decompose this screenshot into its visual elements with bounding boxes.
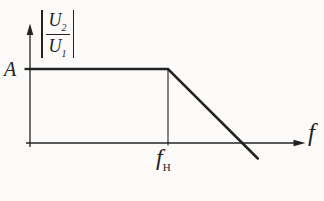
abs-bar-right	[73, 10, 75, 58]
x-axis-arrowhead-icon	[294, 140, 306, 146]
x-tick-subscript: H	[163, 161, 171, 173]
x-tick-label: fH	[156, 142, 171, 173]
response-curve	[30, 69, 258, 159]
y-axis-label: U2 U1	[41, 10, 74, 58]
fraction-numerator: U2	[46, 10, 70, 35]
abs-bar-left	[41, 10, 43, 58]
numerator-base: U	[49, 10, 62, 30]
x-tick-base: f	[156, 144, 163, 170]
y-tick-label: A	[4, 57, 16, 81]
fraction-denominator: U1	[46, 35, 70, 59]
y-axis-arrowhead-icon	[27, 24, 34, 36]
frequency-response-figure: U2 U1 A fH f	[0, 0, 324, 201]
denominator-subscript: 1	[62, 47, 67, 58]
u-ratio-fraction: U2 U1	[46, 10, 70, 58]
denominator-base: U	[49, 36, 62, 56]
x-axis-label: f	[308, 118, 315, 148]
numerator-subscript: 2	[62, 22, 67, 33]
